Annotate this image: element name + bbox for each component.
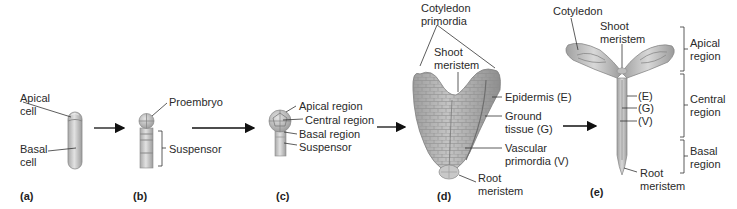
zygote-graphic <box>68 112 82 169</box>
label-basal-region-c: Basal region <box>299 128 360 140</box>
panel-label-e: (e) <box>590 186 603 198</box>
label-suspensor-b: Suspensor <box>169 143 222 155</box>
label-proembryo: Proembryo <box>169 96 223 108</box>
label-root-meristem-e: Root meristem <box>640 167 685 192</box>
label-epidermis: Epidermis (E) <box>505 91 572 103</box>
leader-proembryo <box>152 103 167 116</box>
leader-root-meristem-d <box>459 175 476 182</box>
label-central-region-c: Central region <box>305 114 374 126</box>
bracket-suspensor <box>158 131 166 166</box>
label-e-e: (E) <box>638 90 653 102</box>
leader-root-meristem-e <box>624 168 637 172</box>
label-apical-region-e: Apical region <box>690 37 721 62</box>
label-g-e: (G) <box>638 102 654 114</box>
panel-label-b: (b) <box>133 190 147 202</box>
bracket-central-region <box>680 74 688 137</box>
embryo-development-diagram: Apical cell Basal cell (a) Proembryo Sus… <box>0 0 737 209</box>
torpedo-embryo-graphic <box>566 43 674 175</box>
label-central-region-e: Central region <box>690 93 725 118</box>
label-v-e: (V) <box>638 115 653 127</box>
panel-label-d: (d) <box>437 190 451 202</box>
label-basal-region-e: Basal region <box>690 145 721 170</box>
bracket-apical-region <box>680 27 688 71</box>
label-ground-tissue: Ground tissue (G) <box>505 110 553 135</box>
label-cotyledon-primordia: Cotyledon primordia <box>421 2 471 27</box>
label-basal-cell: Basal cell <box>20 143 48 168</box>
label-root-meristem-d: Root meristem <box>478 172 523 197</box>
label-cotyledon-e: Cotyledon <box>553 5 603 17</box>
label-shoot-meristem-d: Shoot meristem <box>434 46 479 71</box>
proembryo-graphic <box>139 114 154 169</box>
label-apical-region-c: Apical region <box>299 100 363 112</box>
label-shoot-meristem-e: Shoot meristem <box>600 20 645 45</box>
globular-embryo-graphic <box>269 110 291 156</box>
panel-label-a: (a) <box>20 190 33 202</box>
panel-label-c: (c) <box>276 190 289 202</box>
label-apical-cell: Apical cell <box>20 92 50 117</box>
leader-apical-region-c <box>286 106 296 112</box>
label-vascular-primordia: Vascular primordia (V) <box>505 142 569 167</box>
label-suspensor-c: Suspensor <box>299 141 352 153</box>
heart-embryo-graphic <box>413 69 501 179</box>
